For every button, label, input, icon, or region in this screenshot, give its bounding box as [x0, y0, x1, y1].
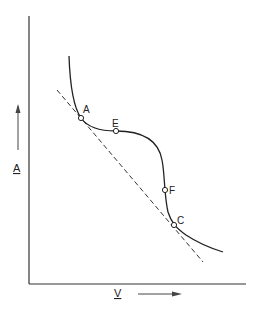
point-c-marker: [171, 222, 176, 227]
x-axis-arrow-icon: [138, 292, 182, 297]
point-e-marker: [113, 128, 118, 133]
y-axis-label: A: [13, 162, 21, 174]
diagram-canvas: A V A E F C: [0, 0, 261, 313]
point-f-label: F: [169, 185, 175, 196]
point-a-marker: [78, 115, 83, 120]
y-axis-arrow-icon: [16, 104, 21, 150]
point-e-label: E: [112, 118, 119, 129]
point-a-label: A: [83, 104, 90, 115]
x-axis-label: V: [114, 287, 122, 299]
free-energy-curve: [69, 56, 223, 252]
point-c-label: C: [177, 215, 184, 226]
point-f-marker: [162, 187, 167, 192]
